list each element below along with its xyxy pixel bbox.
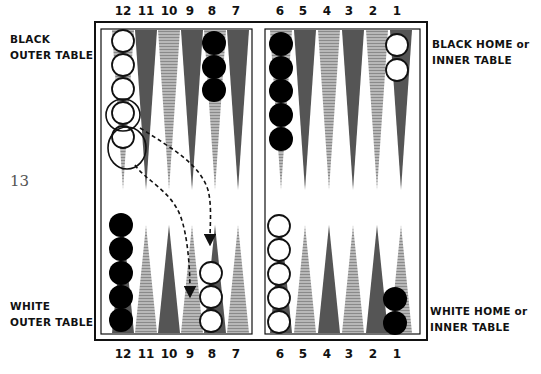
white-checkers-point-6-bottom	[268, 215, 290, 333]
backgammon-board	[0, 0, 541, 374]
white-checkers-point-8-bottom	[200, 262, 222, 332]
black-checkers-point-8-top	[202, 31, 226, 102]
black-checkers-point-6-top	[269, 32, 293, 151]
black-checkers-point-12-bottom	[109, 213, 133, 332]
